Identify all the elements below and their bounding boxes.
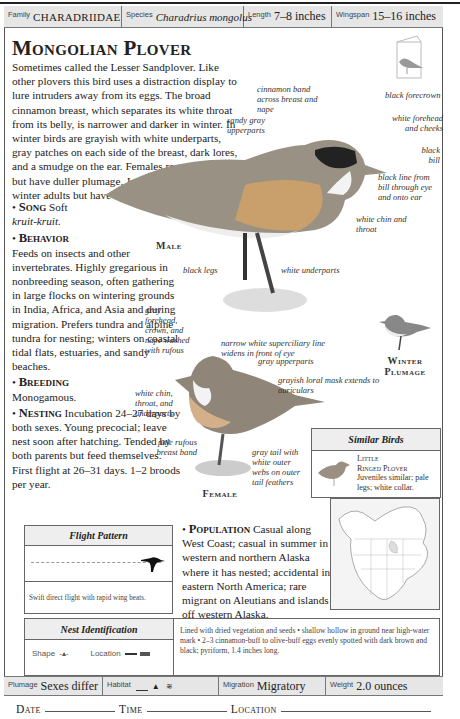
nest-id-left: Nest Identification Shape -▴- Location xyxy=(25,619,174,675)
species-value: Charadrius mongolus xyxy=(156,11,252,23)
wingspan-label: Wingspan xyxy=(336,10,369,19)
length-value: 7–8 inches xyxy=(274,9,326,24)
breeding-text: Monogamous. xyxy=(12,391,76,403)
annot-sandy-gray: sandy gray upperparts xyxy=(227,115,272,135)
weight-label: Weight xyxy=(330,680,353,689)
range-map xyxy=(330,498,440,610)
migration-cell: Migration Migratory xyxy=(219,677,326,695)
habitat-shore-icon: ≋ xyxy=(166,682,173,691)
weight-value: 2.0 ounces xyxy=(356,679,407,694)
habitat-cell: Habitat ▲ ≋ xyxy=(103,677,219,695)
nest-shape-label: Shape xyxy=(32,649,55,658)
flight-pattern-box: Flight Pattern Swift direct flight with … xyxy=(24,525,173,614)
migration-label: Migration xyxy=(223,680,254,689)
nest-id-heading: Nest Identification xyxy=(25,619,173,640)
male-bird-illustration xyxy=(105,115,395,315)
annot-black-line: black line from bill through eye and ont… xyxy=(378,172,442,202)
annot-gray-upperparts: gray upperparts xyxy=(258,356,338,366)
annot-white-forehead: white forehead and cheeks xyxy=(388,113,443,133)
plumage-label: Plumage xyxy=(8,680,38,689)
habitat-ground-icon xyxy=(136,690,148,691)
population-section: • Population Casual along West Coast; ca… xyxy=(182,522,332,621)
breeding-heading: Breeding xyxy=(19,375,69,389)
species-label: Species xyxy=(126,10,153,19)
nesting-heading: Nesting xyxy=(19,406,62,420)
species-cell: Species Charadrius mongolus xyxy=(122,6,244,27)
length-cell: Length 7–8 inches xyxy=(244,6,332,27)
book-bird-icon xyxy=(393,34,427,80)
location-field[interactable] xyxy=(281,711,431,712)
similar-bird-name-1: Little xyxy=(357,454,439,464)
location-label: Location xyxy=(231,703,277,715)
habitat-mountain-icon: ▲ xyxy=(152,682,160,691)
flight-pattern-desc: Swift direct flight with rapid wing beat… xyxy=(25,582,172,602)
time-label: Time xyxy=(119,703,143,715)
wingspan-cell: Wingspan 15–16 inches xyxy=(332,6,443,27)
footer-bar: Plumage Sexes differ Habitat ▲ ≋ Migrati… xyxy=(4,676,443,696)
family-value: CHARADRIIDAE xyxy=(33,11,120,23)
similar-bird-text: Little Ringed Plover Juveniles similar; … xyxy=(357,454,439,492)
similar-birds-heading: Similar Birds xyxy=(312,429,440,451)
annot-superciliary: narrow white superciliary line widens in… xyxy=(221,338,351,358)
nest-location-label: Location xyxy=(90,649,120,658)
nest-shape-location: Shape -▴- Location xyxy=(25,640,173,658)
female-label: Female xyxy=(195,488,245,499)
annot-black-bill: black bill xyxy=(408,145,440,165)
population-text: Casual along West Coast; casual in summe… xyxy=(182,523,330,620)
wingspan-value: 15–16 inches xyxy=(372,9,436,24)
observation-log: Date Time Location xyxy=(16,703,456,715)
population-heading: Population xyxy=(189,522,250,536)
annot-white-chin-female: white chin, throat, and underparts xyxy=(135,388,180,418)
annot-white-underparts: white underparts xyxy=(281,265,361,275)
weight-cell: Weight 2.0 ounces xyxy=(326,677,443,695)
plumage-cell: Plumage Sexes differ xyxy=(4,677,103,695)
annot-pale-rufous: pale rufous breast band xyxy=(152,437,197,457)
similar-birds-box: Similar Birds Little Ringed Plover Juven… xyxy=(311,428,441,498)
page-title: Mongolian Plover xyxy=(12,36,191,61)
length-label: Length xyxy=(248,10,271,19)
similar-bird-desc: Juveniles similar; pale legs; white coll… xyxy=(357,473,439,492)
similar-bird-name-2: Ringed Plover xyxy=(357,464,439,474)
header-bar: Family CHARADRIIDAE Species Charadrius m… xyxy=(4,6,443,28)
song-call: kruit-kruit. xyxy=(12,215,61,227)
nest-identification-box: Nest Identification Shape -▴- Location L… xyxy=(24,618,440,676)
flight-pattern-graphic xyxy=(25,546,172,582)
time-field[interactable] xyxy=(147,711,227,712)
migration-value: Migratory xyxy=(257,679,306,694)
ground-location-icon xyxy=(125,653,137,655)
annot-white-chin: white chin and throat xyxy=(356,214,412,234)
annot-black-forecrown: black forecrown xyxy=(385,90,455,100)
flying-bird-icon xyxy=(141,552,165,574)
habitat-label: Habitat xyxy=(107,680,131,689)
song-heading: Song xyxy=(19,200,46,214)
annot-loral-mask: grayish loral mask extends to auriculars xyxy=(278,375,388,395)
annot-gray-tail: gray tail with white outer webs on outer… xyxy=(252,447,307,487)
winter-bird-illustration xyxy=(377,312,433,352)
little-ringed-plover-icon xyxy=(316,455,350,489)
date-label: Date xyxy=(16,703,41,715)
annot-cinnamon-band: cinnamon band across breast and nape xyxy=(257,84,327,114)
nest-id-desc: Lined with dried vegetation and seeds • … xyxy=(180,626,435,656)
shore-location-icon xyxy=(140,652,150,656)
date-field[interactable] xyxy=(45,711,115,712)
male-label: Male xyxy=(149,240,189,251)
north-america-map-icon xyxy=(331,499,439,609)
family-label: Family xyxy=(8,10,30,19)
family-cell: Family CHARADRIIDAE xyxy=(4,6,122,27)
plumage-value: Sexes differ xyxy=(41,679,98,694)
winter-plumage-label: Winter Plumage xyxy=(375,355,435,377)
flight-pattern-heading: Flight Pattern xyxy=(25,526,172,546)
annot-gray-forehead: gray forehead, crown, and nape washed wi… xyxy=(145,305,195,355)
behavior-heading: Behavior xyxy=(19,231,69,245)
song-text: Soft xyxy=(49,201,68,213)
nest-shape-icon: -▴- xyxy=(59,649,68,658)
annot-black-legs: black legs xyxy=(183,265,233,275)
